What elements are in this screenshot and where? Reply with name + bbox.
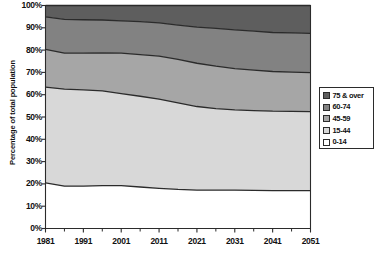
legend-item[interactable]: 45-59 [323, 113, 373, 125]
legend-swatch-icon [323, 104, 330, 111]
legend: 75 & over60-7445-5915-440-14 [319, 87, 374, 149]
legend-swatch-icon [323, 92, 330, 99]
legend-item[interactable]: 75 & over [323, 90, 373, 102]
legend-item[interactable]: 15-44 [323, 125, 373, 137]
legend-swatch-icon [323, 115, 330, 122]
stacked-area-chart: Percentage of total population 0%10%20%3… [0, 0, 377, 255]
legend-swatch-icon [323, 127, 330, 134]
legend-item-label: 15-44 [333, 127, 351, 135]
legend-item[interactable]: 0-14 [323, 136, 373, 148]
legend-item-label: 75 & over [333, 92, 364, 100]
legend-item-label: 60-74 [333, 103, 351, 111]
legend-item-label: 0-14 [333, 138, 347, 146]
legend-swatch-icon [323, 139, 330, 146]
legend-item-label: 45-59 [333, 115, 351, 123]
legend-item[interactable]: 60-74 [323, 102, 373, 114]
